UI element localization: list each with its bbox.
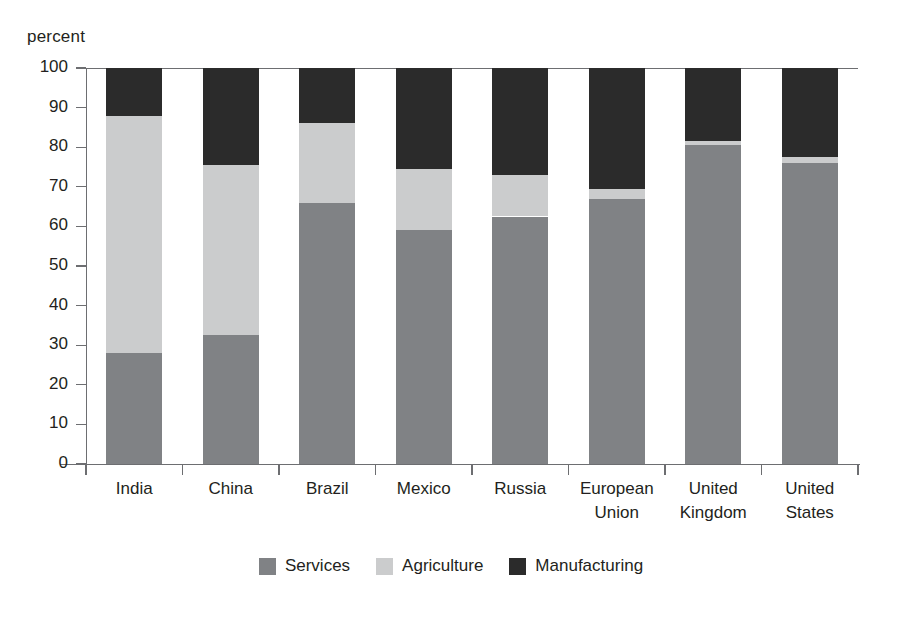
x-axis-label-line: States: [750, 501, 870, 525]
legend-label: Services: [285, 556, 350, 576]
bar-european-union: [589, 68, 645, 464]
x-axis-tick: [471, 464, 472, 475]
bar-segment-agriculture: [203, 165, 259, 335]
bar-segment-services: [685, 145, 741, 464]
bar-segment-services: [299, 203, 355, 464]
legend-swatch-icon: [509, 558, 526, 575]
bar-segment-agriculture: [299, 123, 355, 202]
bar-segment-manufacturing: [396, 68, 452, 169]
legend-label: Agriculture: [402, 556, 483, 576]
x-axis-tick: [761, 464, 762, 475]
x-axis-tick: [375, 464, 376, 475]
bar-segment-manufacturing: [685, 68, 741, 141]
x-axis-label-line: United: [750, 477, 870, 501]
bar-segment-services: [106, 353, 162, 464]
bar-segment-agriculture: [396, 169, 452, 230]
bar-segment-agriculture: [685, 141, 741, 145]
bar-segment-agriculture: [782, 157, 838, 163]
legend-item-agriculture[interactable]: Agriculture: [376, 556, 483, 576]
x-axis-tick: [664, 464, 665, 475]
chart-legend: ServicesAgricultureManufacturing: [0, 556, 902, 576]
bar-brazil: [299, 68, 355, 464]
legend-item-services[interactable]: Services: [259, 556, 350, 576]
bar-segment-manufacturing: [589, 68, 645, 189]
x-axis-tick: [568, 464, 569, 475]
bar-mexico: [396, 68, 452, 464]
x-axis-tick: [857, 464, 858, 475]
bar-segment-services: [396, 230, 452, 464]
x-axis-label-united-states: UnitedStates: [750, 477, 870, 525]
legend-label: Manufacturing: [535, 556, 643, 576]
legend-swatch-icon: [259, 558, 276, 575]
bar-united-states: [782, 68, 838, 464]
bar-segment-manufacturing: [203, 68, 259, 165]
stacked-bar-chart: percent 0102030405060708090100 IndiaChin…: [0, 0, 902, 627]
bar-segment-manufacturing: [782, 68, 838, 157]
bar-india: [106, 68, 162, 464]
x-axis-tick: [278, 464, 279, 475]
bar-segment-manufacturing: [299, 68, 355, 123]
bar-segment-agriculture: [492, 175, 548, 217]
x-axis-tick: [182, 464, 183, 475]
bar-segment-services: [589, 199, 645, 464]
bar-segment-services: [782, 163, 838, 464]
bar-segment-manufacturing: [106, 68, 162, 116]
bar-segment-services: [492, 217, 548, 465]
bar-united-kingdom: [685, 68, 741, 464]
bar-segment-services: [203, 335, 259, 464]
x-axis-tick: [85, 464, 86, 475]
bar-russia: [492, 68, 548, 464]
bar-segment-agriculture: [106, 116, 162, 354]
bars-layer: [0, 0, 902, 464]
legend-item-manufacturing[interactable]: Manufacturing: [509, 556, 643, 576]
legend-swatch-icon: [376, 558, 393, 575]
bar-segment-agriculture: [589, 189, 645, 199]
bar-segment-manufacturing: [492, 68, 548, 175]
bar-china: [203, 68, 259, 464]
